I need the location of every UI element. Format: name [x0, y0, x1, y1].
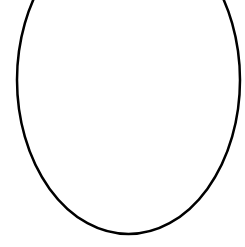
ellipse-figure	[0, 0, 245, 247]
ellipse-outline	[17, 0, 240, 234]
drawing-canvas	[0, 0, 245, 247]
